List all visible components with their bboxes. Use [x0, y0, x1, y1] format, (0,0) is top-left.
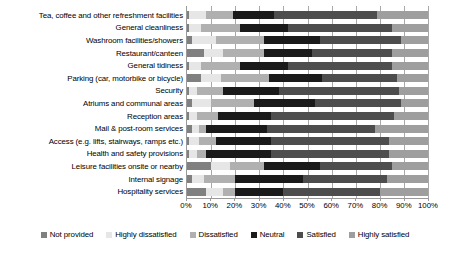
bar-segment: [192, 36, 216, 44]
bar-segment: [320, 162, 392, 170]
bar-segment: [211, 162, 230, 170]
category-label: General cleanliness: [0, 22, 186, 35]
stacked-bar: [187, 36, 428, 44]
bar-segment: [377, 11, 428, 19]
bar-segment: [216, 137, 271, 145]
bar-segment: [189, 112, 196, 120]
bar-row: [187, 9, 428, 22]
bar-row: [187, 97, 428, 110]
bar-segment: [240, 24, 288, 32]
bar-series-container: [187, 6, 428, 198]
bar-segment: [187, 49, 204, 57]
legend-item[interactable]: Highly satisfied: [349, 230, 409, 240]
bar-segment: [288, 62, 392, 70]
stacked-bar: [187, 11, 428, 19]
stacked-bar: [187, 49, 428, 57]
axis-tick-label: 10%: [202, 201, 218, 211]
axis-tick-label: 70%: [348, 201, 364, 211]
bar-segment: [189, 24, 201, 32]
category-label: Access (e.g. lifts, stairways, ramps etc…: [0, 135, 186, 148]
axis-tick-label: 60%: [323, 201, 339, 211]
bar-segment: [201, 74, 220, 82]
bar-segment: [189, 87, 196, 95]
bar-segment: [303, 175, 387, 183]
bar-segment: [315, 99, 402, 107]
bar-segment: [211, 99, 254, 107]
axis-tick-label: 80%: [372, 201, 388, 211]
stacked-bar: [187, 188, 428, 196]
axis-tick-label: 90%: [396, 201, 412, 211]
category-axis: Tea, coffee and other refreshment facili…: [0, 6, 186, 198]
stacked-bar: [187, 162, 428, 170]
legend-label: Neutral: [260, 230, 285, 240]
legend-label: Highly dissatisfied: [115, 230, 176, 240]
bar-segment: [206, 188, 223, 196]
bar-row: [187, 85, 428, 98]
category-label: Washroom facilities/showers: [0, 34, 186, 47]
bar-segment: [271, 137, 389, 145]
bar-segment: [375, 125, 428, 133]
bar-segment: [322, 74, 397, 82]
bar-segment: [216, 36, 264, 44]
bar-segment: [392, 62, 428, 70]
legend-swatch-icon: [41, 232, 47, 238]
bar-segment: [240, 62, 288, 70]
chart-legend: Not providedHighly dissatisfiedDissatisf…: [0, 230, 450, 240]
bar-row: [187, 135, 428, 148]
category-label: Tea, coffee and other refreshment facili…: [0, 9, 186, 22]
bar-row: [187, 59, 428, 72]
legend-item[interactable]: Satisfied: [297, 230, 335, 240]
bar-segment: [189, 11, 206, 19]
bar-segment: [389, 137, 428, 145]
axis-tick-label: 100%: [418, 201, 438, 211]
bar-row: [187, 122, 428, 135]
bar-segment: [271, 112, 394, 120]
legend-label: Dissatisfied: [199, 230, 238, 240]
bar-segment: [201, 24, 240, 32]
bar-segment: [206, 125, 266, 133]
bar-row: [187, 185, 428, 198]
bar-segment: [264, 162, 319, 170]
category-label: Restaurant/canteen: [0, 47, 186, 60]
stacked-bar: [187, 125, 428, 133]
bar-row: [187, 173, 428, 186]
bar-segment: [197, 150, 207, 158]
legend-item[interactable]: Not provided: [41, 230, 94, 240]
bar-segment: [206, 150, 271, 158]
bar-segment: [320, 36, 402, 44]
bar-segment: [401, 36, 428, 44]
stacked-bar: [187, 137, 428, 145]
bar-segment: [218, 112, 271, 120]
bar-segment: [271, 150, 389, 158]
plot-area: [186, 6, 428, 198]
bar-segment: [399, 87, 428, 95]
legend-swatch-icon: [297, 232, 303, 238]
legend-label: Highly satisfied: [358, 230, 409, 240]
legend-swatch-icon: [349, 232, 355, 238]
bar-segment: [189, 137, 199, 145]
legend-item[interactable]: Dissatisfied: [190, 230, 238, 240]
bar-row: [187, 72, 428, 85]
bar-segment: [264, 49, 312, 57]
bar-segment: [187, 162, 211, 170]
category-label: Health and safety provisions: [0, 148, 186, 161]
gridline: [428, 6, 429, 198]
axis-tick-label: 30%: [251, 201, 267, 211]
bar-segment: [380, 188, 428, 196]
bar-segment: [197, 87, 224, 95]
bar-segment: [392, 24, 428, 32]
bar-segment: [254, 99, 314, 107]
plot-wrapper: Tea, coffee and other refreshment facili…: [0, 6, 450, 198]
bar-segment: [199, 125, 206, 133]
category-label: Parking (car, motorbike or bicycle): [0, 72, 186, 85]
stacked-bar: [187, 150, 428, 158]
legend-item[interactable]: Neutral: [251, 230, 285, 240]
bar-segment: [235, 188, 283, 196]
bar-row: [187, 22, 428, 35]
bar-segment: [269, 74, 322, 82]
legend-label: Satisfied: [306, 230, 335, 240]
legend-item[interactable]: Highly dissatisfied: [106, 230, 176, 240]
bar-segment: [389, 150, 428, 158]
bar-segment: [267, 125, 375, 133]
category-label: Leisure facilities onsite or nearby: [0, 160, 186, 173]
